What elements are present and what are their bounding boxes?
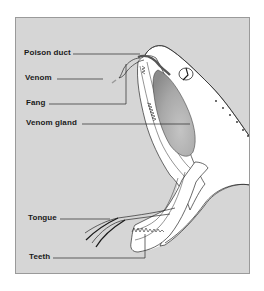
leader-fang [49,64,126,104]
snake-head-illustration [0,0,264,291]
label-teeth: Teeth [29,252,50,261]
label-fang: Fang [26,98,46,107]
venom-drop [112,80,116,83]
label-venom-gland: Venom gland [26,118,77,127]
label-venom: Venom [25,73,52,82]
label-tongue: Tongue [28,213,57,222]
label-poison-duct: Poison duct [24,48,71,57]
